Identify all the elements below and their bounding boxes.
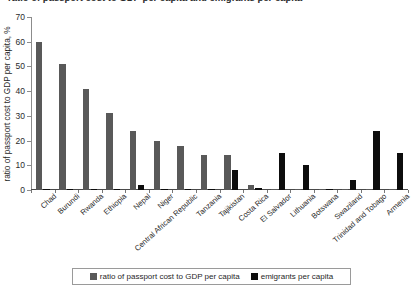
- bar-ratio: [59, 64, 65, 190]
- bar-ratio: [366, 189, 372, 190]
- y-axis-title: ratio of passport cost to GDP per capita…: [1, 17, 13, 190]
- y-tick-label: 10: [16, 161, 25, 170]
- bar-emigrants: [43, 189, 49, 190]
- y-tick-label: 60: [16, 38, 25, 47]
- x-axis-label: Nepal: [131, 191, 153, 212]
- x-axis-label: Rwanda: [78, 191, 105, 217]
- legend-swatch-ratio-icon: [90, 273, 97, 280]
- bar-ratio: [154, 141, 160, 190]
- bar-group-item: [125, 17, 149, 190]
- bar-ratio: [271, 189, 277, 190]
- bar-group-item: [78, 17, 102, 190]
- x-axis-label: Niger: [156, 191, 176, 211]
- bar-group-item: [290, 17, 314, 190]
- bar-group-item: [55, 17, 79, 190]
- bar-emigrants: [326, 189, 332, 190]
- bar-emigrants: [185, 189, 191, 190]
- bar-emigrants: [255, 188, 261, 190]
- bar-ratio: [83, 89, 89, 190]
- x-axis-label: Ethiopia: [102, 191, 129, 217]
- bar-group-item: [102, 17, 126, 190]
- bar-group-item: [149, 17, 173, 190]
- bar-group-item: [196, 17, 220, 190]
- plot-area: 010203040506070: [31, 17, 408, 190]
- chart-screenshot: ratio of passport cost to GDP per capita…: [0, 0, 419, 288]
- bar-ratio: [295, 189, 301, 190]
- bar-group-item: [267, 17, 291, 190]
- bar-ratio: [342, 189, 348, 190]
- chart-legend: ratio of passport cost to GDP per capita…: [72, 268, 351, 285]
- bar-group-item: [361, 17, 385, 190]
- legend-label-emigrants: emigrants per capita: [261, 272, 333, 281]
- x-axis-category-labels: ChadBurundiRwandaEthiopiaNepalNigerCentr…: [31, 191, 408, 253]
- y-tick-label: 20: [16, 137, 25, 146]
- bar-ratio: [130, 131, 136, 190]
- figure-title-text: ratio of passport cost to GDP per capita…: [8, 0, 302, 3]
- bar-emigrants: [67, 189, 73, 190]
- bar-group-item: [220, 17, 244, 190]
- bar-group-item: [172, 17, 196, 190]
- legend-item-emigrants: emigrants per capita: [251, 272, 333, 281]
- bar-ratio: [106, 113, 112, 190]
- bar-group-item: [384, 17, 408, 190]
- bar-emigrants: [303, 165, 309, 190]
- bar-group-item: [243, 17, 267, 190]
- bar-emigrants: [279, 153, 285, 190]
- y-tick-label: 70: [16, 13, 25, 22]
- x-axis-label: Burundi: [56, 191, 82, 216]
- bar-ratio: [36, 42, 42, 190]
- bar-group-item: [314, 17, 338, 190]
- bar-ratio: [248, 185, 254, 190]
- figure-title-cropped: ratio of passport cost to GDP per capita…: [0, 0, 419, 9]
- bar-group-item: [31, 17, 55, 190]
- bar-emigrants: [114, 189, 120, 190]
- bar-ratio: [389, 189, 395, 190]
- y-tick-label: 0: [20, 186, 25, 195]
- y-tick-label: 30: [16, 112, 25, 121]
- legend-item-ratio: ratio of passport cost to GDP per capita: [90, 272, 240, 281]
- x-axis-label: Armenia: [384, 191, 412, 217]
- bar-group: [31, 17, 408, 190]
- bar-ratio: [319, 189, 325, 190]
- legend-swatch-emigrants-icon: [251, 273, 258, 280]
- bar-emigrants: [161, 189, 167, 190]
- y-axis-title-text: ratio of passport cost to GDP per capita…: [3, 26, 12, 181]
- y-tick-label: 40: [16, 87, 25, 96]
- bar-ratio: [201, 155, 207, 190]
- bar-ratio: [177, 146, 183, 190]
- bar-emigrants: [350, 180, 356, 190]
- bar-emigrants: [397, 153, 403, 190]
- bar-group-item: [337, 17, 361, 190]
- bar-emigrants: [373, 131, 379, 190]
- bar-emigrants: [91, 189, 97, 190]
- bar-emigrants: [138, 185, 144, 190]
- y-tick-label: 50: [16, 62, 25, 71]
- legend-label-ratio: ratio of passport cost to GDP per capita: [100, 272, 240, 281]
- bar-ratio: [224, 155, 230, 190]
- bar-emigrants: [232, 170, 238, 190]
- bar-emigrants: [208, 189, 214, 190]
